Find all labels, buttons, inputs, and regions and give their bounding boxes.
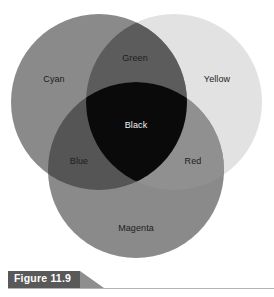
caption-label: Figure 11.9 <box>14 272 71 284</box>
venn-diagram: Cyan Green Yellow Black Blue Red Magenta <box>0 0 274 268</box>
figure-page: Cyan Green Yellow Black Blue Red Magenta… <box>0 0 274 297</box>
venn-diagram-svg <box>0 0 274 268</box>
caption-rule <box>8 288 274 289</box>
figure-caption: Figure 11.9 <box>0 268 274 297</box>
